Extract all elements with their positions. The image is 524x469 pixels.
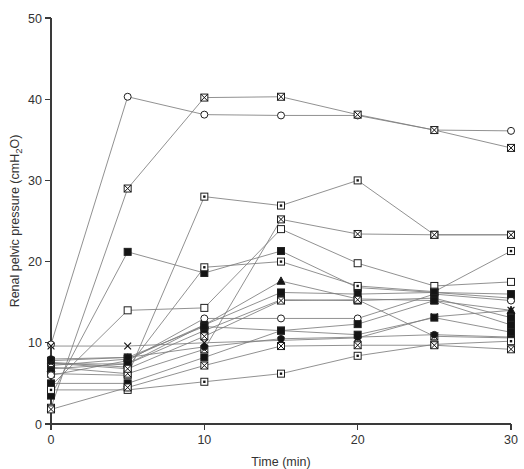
series-group [47,93,515,413]
data-point-square-filled [431,297,438,304]
data-point-square-crossed [278,93,285,100]
data-point-square-crossed [431,342,438,349]
data-point-square-open [124,307,131,314]
x-axis-title: Time (min) [251,455,310,469]
data-point-square-dotted [508,338,515,345]
x-tick-label: 20 [351,433,365,447]
data-point-square-crossed [431,127,438,134]
data-point-square-filled [201,354,208,361]
data-point-square-crossed [201,362,208,369]
y-tick-label: 50 [28,12,42,26]
data-point-square-filled [354,321,361,328]
data-point-square-crossed [48,406,55,413]
data-point-square-filled [201,323,208,330]
data-point-square-dotted [354,282,361,289]
x-tick-label: 30 [504,433,518,447]
data-point-square-filled [508,291,515,298]
data-point-square-dotted [278,202,285,209]
data-point-square-crossed [201,333,208,340]
data-point-square-dotted [48,386,55,393]
data-point-square-filled [124,248,131,255]
data-point-square-open [201,304,208,311]
data-point-circle-filled [124,354,131,361]
data-point-square-filled [508,329,515,336]
data-point-square-dotted [354,177,361,184]
axis-labels-group: 010203040500102030Time (min)Renal pelvic… [8,12,518,469]
chart-plot-area: 010203040500102030Time (min)Renal pelvic… [0,0,524,469]
data-point-circle-open [278,315,285,322]
x-tick-label: 0 [48,433,55,447]
data-point-square-dotted [201,264,208,271]
data-point-square-dotted [508,248,515,255]
data-point-square-crossed [354,230,361,237]
data-point-square-crossed [508,144,515,151]
data-point-circle-open [201,315,208,322]
data-point-square-crossed [278,297,285,304]
data-point-square-filled [48,380,55,387]
data-point-square-filled [278,327,285,334]
data-point-circle-open [508,127,515,134]
data-point-square-crossed [431,231,438,238]
data-point-circle-filled [431,331,438,338]
data-point-square-crossed [124,365,131,372]
data-point-square-crossed [354,296,361,303]
data-point-square-open [354,260,361,267]
data-point-square-filled [508,314,515,321]
y-tick-label: 40 [28,93,42,107]
data-point-square-dotted [278,258,285,265]
data-point-circle-open [124,93,131,100]
y-tick-label: 0 [35,418,42,432]
data-point-square-filled [278,289,285,296]
data-point-square-crossed [201,94,208,101]
data-point-square-crossed [124,185,131,192]
data-point-square-crossed [354,342,361,349]
data-point-circle-open [48,341,55,348]
data-point-square-open [278,226,285,233]
data-point-circle-open [201,111,208,118]
data-point-square-dotted [201,378,208,385]
y-tick-label: 20 [28,255,42,269]
data-point-square-crossed [354,111,361,118]
data-point-square-crossed [508,231,515,238]
y-axis-title: Renal pelvic pressure (cmH2O) [8,135,24,308]
data-point-circle-open [278,112,285,119]
data-point-square-filled [278,248,285,255]
y-tick-label: 30 [28,174,42,188]
x-tick-label: 10 [197,433,211,447]
data-point-square-crossed [278,216,285,223]
data-point-square-open [508,278,515,285]
data-point-square-dotted [201,193,208,200]
chart-figure: 010203040500102030Time (min)Renal pelvic… [0,0,524,469]
y-tick-label: 10 [28,336,42,350]
data-point-square-dotted [278,370,285,377]
markers-subject-7 [48,248,515,371]
data-point-circle-open [48,372,55,379]
data-point-square-crossed [508,346,515,353]
data-point-square-filled [508,321,515,328]
data-point-circle-filled [48,356,55,363]
data-point-square-crossed [124,384,131,391]
data-point-triangle-filled [277,277,285,284]
data-point-circle-open [508,297,515,304]
data-point-square-dotted [354,352,361,359]
